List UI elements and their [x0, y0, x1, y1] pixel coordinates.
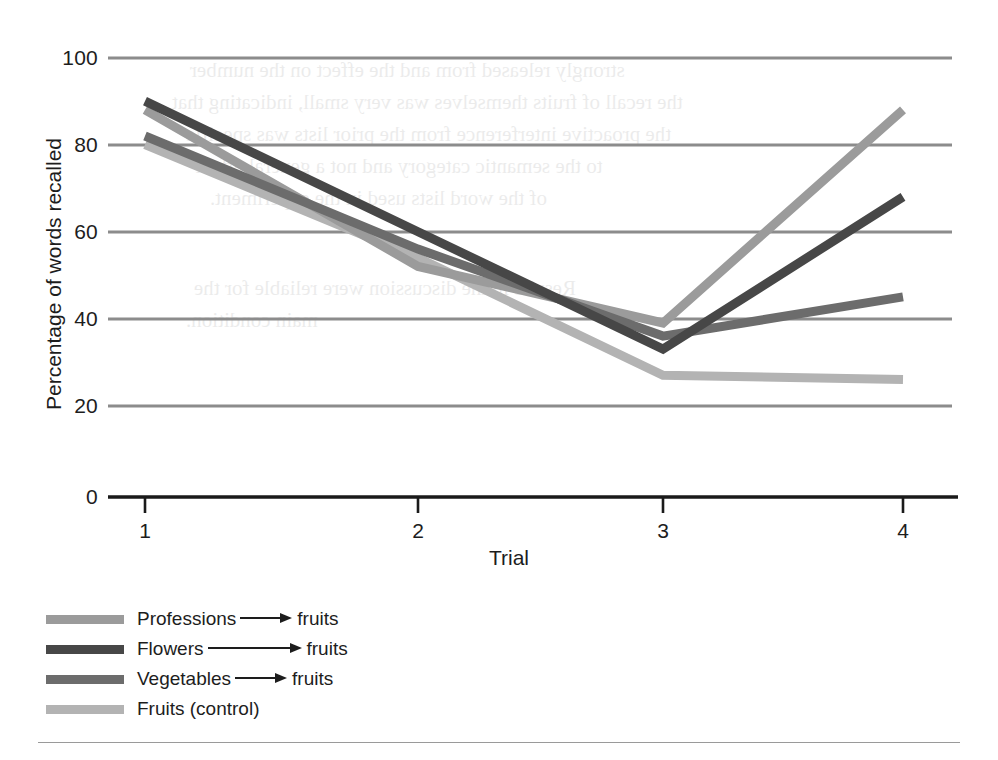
legend-target-vegetables: fruits: [292, 668, 333, 690]
legend-label-professions: Professions fruits: [137, 608, 338, 630]
x-tick-label-4: 4: [883, 519, 923, 543]
legend-item-vegetables: Vegetables fruits: [46, 664, 466, 694]
legend-name-fruits-control: Fruits (control): [137, 698, 259, 720]
data-series-group: [145, 101, 903, 380]
right-arrow-icon: [240, 612, 292, 624]
plot-area: [0, 0, 998, 560]
legend-label-vegetables: Vegetables fruits: [137, 668, 333, 690]
x-tick-label-3: 3: [643, 519, 683, 543]
y-tick-label-0: 0: [34, 485, 98, 509]
legend-item-fruits-control: Fruits (control): [46, 694, 466, 724]
legend-swatch-professions: [46, 615, 124, 624]
x-tick-marks: [145, 497, 903, 513]
legend-name-vegetables: Vegetables: [137, 668, 231, 690]
legend-name-flowers: Flowers: [137, 638, 204, 660]
legend-label-fruits-control: Fruits (control): [137, 698, 259, 720]
legend-swatch-flowers: [46, 645, 124, 654]
line-chart-figure: 100 80 60 40 20 0 1 2 3 4 Percentage of …: [0, 0, 998, 760]
x-tick-label-2: 2: [398, 519, 438, 543]
legend-target-professions: fruits: [297, 608, 338, 630]
right-arrow-icon: [208, 642, 302, 654]
right-arrow-icon: [235, 672, 287, 684]
legend-target-flowers: fruits: [307, 638, 348, 660]
legend-name-professions: Professions: [137, 608, 236, 630]
footer-divider: [38, 742, 960, 743]
x-axis-label: Trial: [449, 546, 569, 570]
legend-item-flowers: Flowers fruits: [46, 634, 466, 664]
legend-swatch-vegetables: [46, 675, 124, 684]
gridlines: [108, 58, 952, 406]
chart-legend: Professions fruits Flowers: [46, 604, 466, 724]
legend-swatch-fruits-control: [46, 705, 124, 714]
legend-label-flowers: Flowers fruits: [137, 638, 348, 660]
y-tick-label-100: 100: [34, 46, 98, 70]
y-axis-label: Percentage of words recalled: [42, 104, 66, 444]
legend-item-professions: Professions fruits: [46, 604, 466, 634]
x-tick-label-1: 1: [125, 519, 165, 543]
